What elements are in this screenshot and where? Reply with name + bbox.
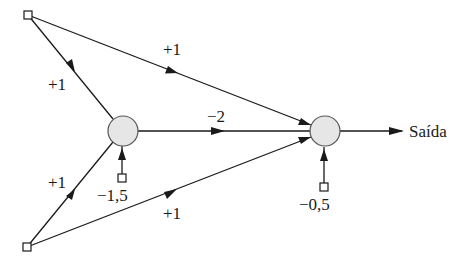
output-neuron [310,116,340,146]
edge-bias-hidden [118,146,126,174]
arrow-icon [389,127,404,135]
neural-network-diagram: +1 +1 +1 +1 −2 −1,5 −0,5 Saída [0,0,475,269]
input-node-bottom [23,243,31,251]
arrow-icon [211,127,225,135]
arrow-icon [298,118,311,125]
weight-label-top-hidden: +1 [48,75,66,94]
bias-node-hidden [118,174,126,182]
bias-node-output [320,183,328,191]
weight-label-bottom-hidden: +1 [48,173,66,192]
edge-output-to-saida [340,127,404,135]
edge-input-top-to-hidden [28,15,113,119]
input-node-top [24,11,32,19]
edge-hidden-to-output [138,127,310,135]
edge-input-top-to-output [28,15,311,125]
bias-label-output: −0,5 [299,195,330,214]
bias-label-hidden: −1,5 [97,186,128,205]
arrow-icon [320,149,328,161]
arrow-icon [298,137,311,144]
weight-label-top-output: +1 [163,40,181,59]
arrow-icon [165,66,178,74]
arrow-icon [66,59,75,72]
edge-input-bottom-to-output [27,137,311,247]
edge-bias-output [320,147,328,183]
output-label: Saída [409,122,447,141]
arrow-icon [164,189,177,199]
hidden-neuron [108,116,138,146]
weight-label-bottom-output: +1 [163,204,181,223]
weight-label-hidden-output: −2 [207,107,225,126]
arrow-icon [118,148,126,160]
